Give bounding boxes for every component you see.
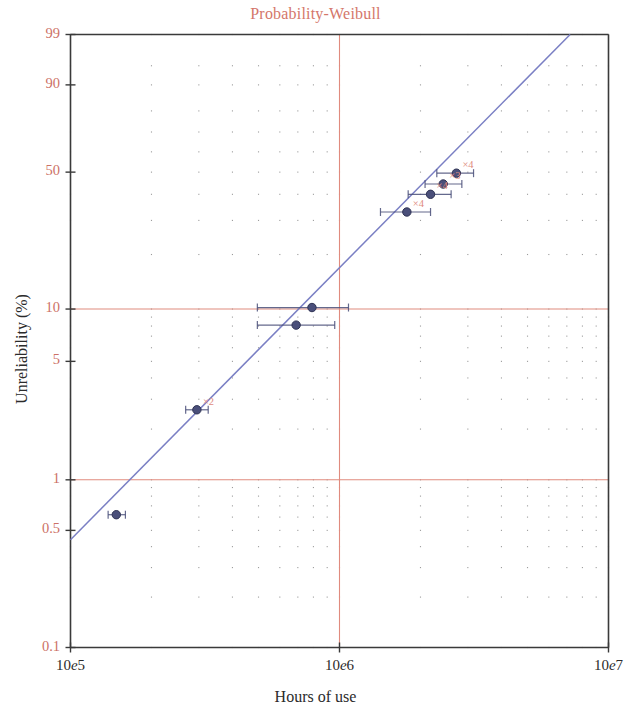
grid-dot <box>151 597 152 598</box>
grid-dot <box>467 505 468 506</box>
data-point-marker[interactable] <box>426 190 434 198</box>
grid-dot <box>582 377 583 378</box>
grid-dot <box>327 487 328 488</box>
grid-dot <box>596 220 597 221</box>
grid-dot <box>566 530 567 531</box>
grid-dot <box>258 220 259 221</box>
grid-dot <box>258 505 259 506</box>
grid-dot <box>151 347 152 348</box>
grid-dot <box>548 151 549 152</box>
grid-dot <box>548 399 549 400</box>
data-point-marker[interactable] <box>403 208 411 216</box>
grid-dot <box>279 546 280 547</box>
grid-dot <box>582 530 583 531</box>
grid-dot <box>420 505 421 506</box>
grid-dot <box>297 131 298 132</box>
grid-dot <box>566 429 567 430</box>
grid-dot <box>151 505 152 506</box>
grid-dot <box>527 361 528 362</box>
grid-dot <box>258 496 259 497</box>
plot-canvas <box>0 0 631 716</box>
grid-dot <box>467 84 468 85</box>
grid-dot <box>297 597 298 598</box>
grid-dot <box>151 84 152 85</box>
grid-dot <box>566 347 567 348</box>
grid-dot <box>527 151 528 152</box>
grid-dot <box>297 530 298 531</box>
grid-dot <box>420 220 421 221</box>
grid-dot <box>548 326 549 327</box>
grid-dot <box>198 172 199 173</box>
grid-dot <box>582 597 583 598</box>
grid-dot <box>151 65 152 66</box>
data-markers-layer <box>112 169 460 519</box>
grid-dot <box>258 530 259 531</box>
grid-dot <box>258 172 259 173</box>
grid-dot <box>467 317 468 318</box>
grid-dot <box>258 151 259 152</box>
grid-dot <box>582 317 583 318</box>
grid-dot <box>467 567 468 568</box>
grid-dot <box>467 361 468 362</box>
grid-dot <box>467 220 468 221</box>
data-point-marker[interactable] <box>292 321 300 329</box>
grid-dot <box>151 151 152 152</box>
grid-dot <box>327 399 328 400</box>
grid-dot <box>232 110 233 111</box>
grid-dot <box>527 530 528 531</box>
grid-dot <box>527 65 528 66</box>
grid-dot <box>279 84 280 85</box>
grid-dot <box>501 65 502 66</box>
grid-dot <box>501 429 502 430</box>
grid-dot <box>501 110 502 111</box>
grid-dot <box>596 429 597 430</box>
x-axis-tick-label: 10e7 <box>569 657 631 674</box>
grid-dot <box>313 172 314 173</box>
grid-dot <box>548 429 549 430</box>
grid-dot <box>596 597 597 598</box>
grid-dot <box>232 487 233 488</box>
grid-dot <box>548 597 549 598</box>
grid-dot <box>467 399 468 400</box>
grid-dot <box>566 377 567 378</box>
grid-dot <box>279 429 280 430</box>
grid-dot <box>198 567 199 568</box>
grid-dot <box>566 326 567 327</box>
grid-dot <box>151 377 152 378</box>
grid-dot <box>258 517 259 518</box>
grid-dot <box>596 517 597 518</box>
grid-dot <box>198 254 199 255</box>
grid-dot <box>313 110 314 111</box>
grid-dot <box>327 505 328 506</box>
grid-dot <box>198 487 199 488</box>
grid-dot <box>258 597 259 598</box>
grid-dot <box>232 317 233 318</box>
data-point-marker[interactable] <box>308 303 316 311</box>
grid-dot <box>198 496 199 497</box>
grid-dot <box>548 65 549 66</box>
grid-dot <box>198 347 199 348</box>
grid-dot <box>582 172 583 173</box>
grid-dot <box>548 84 549 85</box>
data-point-marker[interactable] <box>112 511 120 519</box>
grid-dot <box>279 65 280 66</box>
grid-dot <box>258 65 259 66</box>
grid-dot <box>232 597 233 598</box>
data-point-marker[interactable] <box>193 406 201 414</box>
grid-dot <box>297 487 298 488</box>
y-axis-tick-label: 0.1 <box>8 638 60 655</box>
grid-dot <box>313 399 314 400</box>
grid-dot <box>548 336 549 337</box>
point-multiplicity-label: ×3 <box>449 170 460 181</box>
grid-dot <box>501 326 502 327</box>
grid-dot <box>501 517 502 518</box>
grid-dot <box>258 194 259 195</box>
grid-dot <box>501 567 502 568</box>
grid-dot <box>566 361 567 362</box>
grid-dot <box>258 487 259 488</box>
grid-dot <box>297 505 298 506</box>
grid-dot <box>297 151 298 152</box>
grid-dot <box>566 496 567 497</box>
grid-dot <box>582 110 583 111</box>
y-axis-tick-label: 99 <box>8 25 60 42</box>
